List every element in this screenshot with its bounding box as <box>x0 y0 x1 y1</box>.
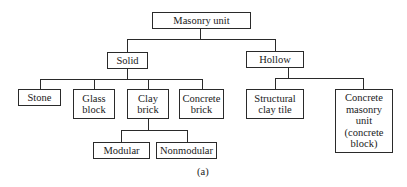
node-stone: Stone <box>18 89 61 106</box>
figure-caption: (a) <box>197 166 209 177</box>
connector-to-clay-brick <box>148 79 149 89</box>
connector-hollow-down <box>288 67 289 78</box>
connector-solid-horizontal <box>40 79 203 80</box>
connector-to-glass-block <box>94 79 95 89</box>
connector-to-concrete-masonry-unit <box>363 78 364 89</box>
connector-to-modular <box>121 130 122 142</box>
node-concrete-brick: Concrete brick <box>179 89 224 119</box>
connector-to-structural-clay-tile <box>275 78 276 89</box>
connector-to-stone <box>40 79 41 89</box>
connector-solid-down <box>127 68 128 79</box>
node-solid: Solid <box>107 52 148 69</box>
connector-root-horizontal <box>127 39 276 40</box>
node-structural-clay-tile: Structural clay tile <box>246 89 304 119</box>
node-masonry-unit: Masonry unit <box>152 12 251 29</box>
connector-root-down <box>200 28 201 39</box>
connector-to-concrete-brick <box>202 79 203 89</box>
node-glass-block: Glass block <box>73 89 115 119</box>
connector-to-nonmodular <box>187 130 188 142</box>
node-clay-brick: Clay brick <box>127 89 169 119</box>
connector-clay-brick-horizontal <box>121 130 188 131</box>
node-nonmodular: Nonmodular <box>156 142 217 159</box>
node-modular: Modular <box>93 142 150 159</box>
connector-clay-brick-down <box>148 119 149 130</box>
connector-to-solid <box>127 39 128 52</box>
node-hollow: Hollow <box>246 51 304 68</box>
connector-hollow-horizontal <box>275 78 364 79</box>
node-concrete-masonry-unit: Concrete masonry unit (concrete block) <box>335 89 393 153</box>
connector-to-hollow <box>275 39 276 51</box>
